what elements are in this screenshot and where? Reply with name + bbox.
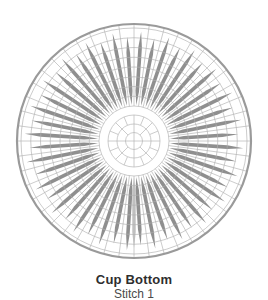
stitch-spoke — [135, 32, 141, 105]
center-division-line — [124, 117, 127, 125]
stitch-spoke — [170, 142, 243, 148]
center-division-line — [150, 131, 158, 134]
pattern-title: Cup Bottom — [0, 273, 268, 287]
radial-grid-line — [159, 58, 217, 116]
center-division-line — [124, 157, 127, 165]
pattern-subtitle: Stitch 1 — [0, 288, 268, 300]
center-division-line — [140, 123, 152, 135]
stitch-spoke — [25, 133, 98, 139]
center-division-line — [116, 123, 128, 135]
center-division-line — [141, 157, 144, 165]
pattern-page: Cup Bottom Stitch 1 — [0, 0, 268, 300]
radial-grid-line — [159, 166, 217, 224]
caption: Cup Bottom Stitch 1 — [0, 273, 268, 300]
center-division-line — [140, 147, 152, 159]
grid-layer — [17, 24, 251, 258]
center-division-line — [141, 117, 144, 125]
radial-grid-line — [51, 166, 109, 224]
stitch-spoke — [126, 37, 132, 105]
stitch-spoke — [126, 177, 132, 250]
center-division-line — [116, 147, 128, 159]
radial-grid-line — [51, 58, 109, 116]
stitch-spoke — [30, 142, 98, 148]
stitch-chart — [0, 0, 268, 300]
stitch-spoke — [170, 133, 238, 139]
stitch-spoke — [135, 177, 141, 245]
center-division-line — [150, 148, 158, 151]
center-division-line — [110, 131, 118, 134]
center-division-line — [110, 148, 118, 151]
